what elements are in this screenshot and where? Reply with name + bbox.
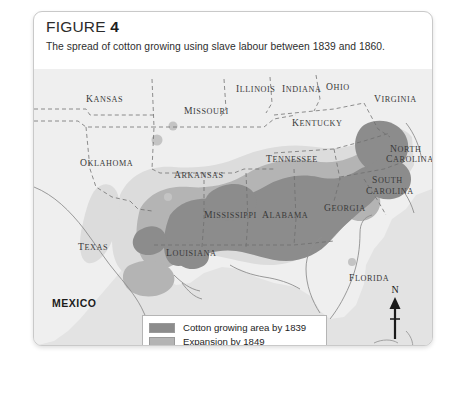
- figure-caption: The spread of cotton growing using slave…: [46, 41, 385, 52]
- state-label-south: SOUTH: [372, 174, 403, 185]
- compass: N: [382, 284, 408, 340]
- state-label-oklahoma: OKLAHOMA: [80, 157, 133, 168]
- legend-row: Expansion by 1849: [149, 335, 320, 346]
- state-label-virginia: VIRGINIA: [374, 93, 417, 104]
- state-label-kentucky: KENTUCKY: [292, 117, 342, 128]
- compass-north-label: N: [382, 284, 408, 295]
- legend-swatch-1839: [149, 323, 175, 333]
- state-label-tennessee: TENNESSEE: [266, 153, 318, 164]
- state-label-alabama: ALABAMA: [262, 209, 308, 220]
- legend-swatch-1849: [149, 337, 175, 347]
- state-label-carolina-n: CAROLINA: [386, 153, 432, 164]
- scan-remnant-text: [10, 0, 330, 9]
- state-label-florida: FLORIDA: [349, 272, 389, 283]
- figure-screenshot: FIGURE 4 The spread of cotton growing us…: [0, 0, 466, 400]
- map-panel: KANSAS MISSOURI ILLINOIS INDIANA OHIO VI…: [34, 69, 432, 346]
- country-label-mexico: MEXICO: [52, 297, 96, 309]
- map-legend: Cotton growing area by 1839 Expansion by…: [142, 315, 327, 346]
- state-label-carolina-s: CAROLINA: [366, 185, 414, 196]
- state-label-kansas: KANSAS: [86, 93, 123, 104]
- state-label-arkansas: ARKANSAS: [174, 169, 224, 180]
- figure-number: 4: [110, 18, 119, 35]
- figure-title-label: FIGURE: [46, 18, 106, 35]
- figure-title: FIGURE 4: [46, 18, 119, 36]
- legend-label-1839: Cotton growing area by 1839: [183, 322, 306, 333]
- figure-card: FIGURE 4 The spread of cotton growing us…: [33, 11, 433, 346]
- state-label-mississippi: MISSISSIPPI: [204, 209, 257, 220]
- state-label-ohio: OHIO: [326, 81, 350, 92]
- state-label-illinois: ILLINOIS: [236, 83, 275, 94]
- state-label-texas: TEXAS: [78, 241, 108, 252]
- state-label-missouri: MISSOURI: [184, 105, 229, 116]
- state-label-georgia: GEORGIA: [324, 202, 366, 213]
- legend-label-1849: Expansion by 1849: [183, 336, 265, 346]
- north-arrow-icon: [382, 297, 408, 339]
- state-label-louisiana: LOUISIANA: [166, 247, 216, 258]
- legend-row: Cotton growing area by 1839: [149, 321, 320, 334]
- state-label-indiana: INDIANA: [282, 83, 321, 94]
